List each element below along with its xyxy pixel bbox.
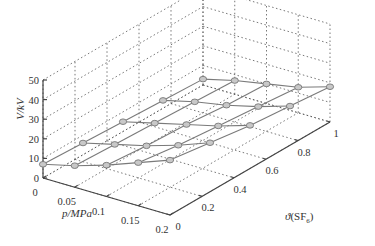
x-tick-label: 0 [32,187,37,198]
data-point-marker [159,98,166,104]
z-tick-label: 0 [34,173,39,184]
data-point-marker [223,102,230,108]
data-point-marker [286,103,293,109]
z-tick-label: 50 [29,75,40,86]
data-point-marker [175,142,182,148]
data-point-marker [326,84,333,90]
surface-chart: 0102030405000.050.10.150.200.20.40.60.81… [0,0,375,246]
data-point-marker [39,161,46,167]
x-tick-label: 0.15 [121,215,139,226]
data-point-marker [166,157,173,163]
data-point-marker [295,84,302,90]
z-tick-label: 30 [29,114,40,125]
data-point-marker [135,160,142,166]
z-tick-label: 40 [29,95,40,106]
y-tick-label: 0.4 [233,184,247,195]
data-point-marker [199,76,206,82]
data-point-marker [255,104,262,110]
z-tick-label: 10 [29,153,40,164]
data-point-marker [103,162,110,168]
data-point-marker [71,163,78,169]
data-point-marker [183,122,190,128]
data-point-marker [111,142,118,148]
data-point-marker [143,143,150,149]
x-axis-label: p/MPa [61,207,92,219]
data-point-marker [231,78,238,84]
y-tick-label: 0.8 [297,147,310,158]
z-axis-label: V/kV [14,97,26,120]
y-tick-label: 0.6 [265,165,278,176]
y-axis-label: ϑ(SF6) [285,210,314,225]
y-tick-label: 0 [175,221,180,232]
data-point-marker [151,120,158,126]
data-point-marker [119,119,126,125]
data-point-marker [191,99,198,105]
surface-mesh [39,76,333,168]
data-point-marker [215,123,222,129]
data-point-marker [246,123,253,129]
data-point-marker [79,140,86,146]
z-tick-label: 20 [29,134,40,145]
x-tick-label: 0.2 [155,224,168,235]
x-tick-label: 0.1 [92,206,105,217]
y-tick-label: 1 [333,128,338,139]
axes [43,80,330,215]
y-tick-label: 0.2 [201,202,214,213]
x-tick-label: 0.05 [58,196,76,207]
data-point-marker [206,140,213,146]
data-point-marker [263,81,270,87]
